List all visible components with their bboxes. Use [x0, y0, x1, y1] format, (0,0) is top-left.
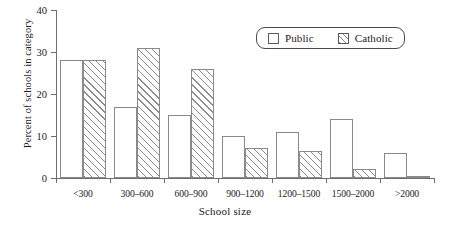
bar-catholic-4	[299, 151, 322, 178]
x-tick-label: 300–600	[121, 188, 154, 199]
y-tick-label: 20	[37, 89, 48, 100]
bar-catholic-1	[137, 48, 160, 178]
y-axis-title: Percent of schools in category	[22, 0, 33, 169]
x-tick	[434, 178, 435, 183]
legend-item-catholic: Catholic	[338, 32, 393, 44]
x-tick	[326, 178, 327, 183]
x-tick	[164, 178, 165, 183]
bar-public-2	[168, 115, 191, 178]
x-tick-label: >2000	[395, 188, 419, 199]
legend-label-public: Public	[285, 32, 314, 44]
y-tick-label: 0	[42, 173, 47, 184]
x-tick	[218, 178, 219, 183]
y-tick-label: 40	[37, 5, 48, 16]
bar-public-4	[276, 132, 299, 178]
bar-catholic-3	[245, 148, 268, 178]
legend-swatch-public	[268, 33, 279, 44]
x-tick	[380, 178, 381, 183]
x-tick	[272, 178, 273, 183]
y-tick-label: 30	[37, 47, 48, 58]
bar-public-6	[384, 153, 407, 178]
x-tick-label: 1200–1500	[278, 188, 320, 199]
bar-catholic-6	[407, 176, 430, 178]
x-tick	[110, 178, 111, 183]
bar-public-3	[222, 136, 245, 178]
legend-label-catholic: Catholic	[355, 32, 393, 44]
x-tick-label: <300	[73, 188, 92, 199]
legend-swatch-catholic	[338, 33, 349, 44]
bar-catholic-2	[191, 69, 214, 178]
x-tick	[56, 178, 57, 183]
bar-public-0	[60, 60, 83, 178]
x-axis-line	[56, 178, 434, 179]
bar-chart: Percent of schools in category 010203040…	[0, 0, 450, 231]
x-tick-label: 600–900	[175, 188, 208, 199]
x-tick-label: 1500–2000	[332, 188, 374, 199]
bar-catholic-5	[353, 169, 376, 178]
chart-legend: Public Catholic	[256, 27, 405, 49]
bar-public-5	[330, 119, 353, 178]
x-tick-label: 900–1200	[226, 188, 264, 199]
bar-public-1	[114, 107, 137, 178]
bar-catholic-0	[83, 60, 106, 178]
legend-item-public: Public	[268, 32, 314, 44]
x-axis-title: School size	[0, 205, 450, 217]
y-tick-label: 10	[37, 131, 48, 142]
